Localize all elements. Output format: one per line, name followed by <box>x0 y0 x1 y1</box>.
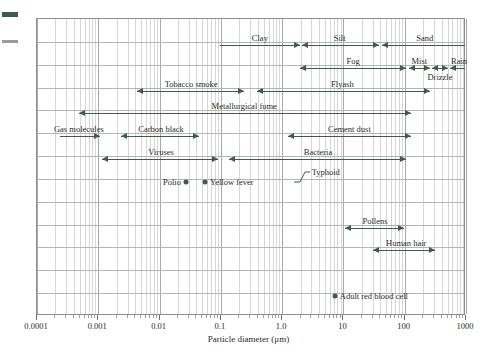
range-bar <box>409 68 431 69</box>
x-tick-label: 0.001 <box>88 321 107 331</box>
x-tick-minor <box>145 315 146 318</box>
range-bar <box>373 250 435 251</box>
x-tick-major <box>281 315 282 320</box>
x-tick-minor <box>318 315 319 318</box>
plot-area <box>36 18 465 315</box>
range-label: Carbon black <box>138 124 184 134</box>
gridline-horizontal <box>37 42 464 43</box>
x-tick-minor <box>116 315 117 318</box>
range-label: Metallurgical fume <box>212 101 277 111</box>
x-tick-minor <box>140 315 141 318</box>
x-tick-minor <box>278 315 279 318</box>
range-bar <box>229 159 406 160</box>
range-label: Human hair <box>386 238 426 248</box>
x-tick-minor <box>153 315 154 318</box>
x-tick-minor <box>441 315 442 318</box>
range-label: Bacteria <box>304 147 332 157</box>
x-tick-minor <box>88 315 89 318</box>
x-tick-minor <box>177 315 178 318</box>
range-label: Clay <box>252 33 268 43</box>
x-tick-minor <box>238 315 239 318</box>
x-tick-label: 0.1 <box>215 321 226 331</box>
x-tick-minor <box>333 315 334 318</box>
x-tick-minor <box>79 315 80 318</box>
x-tick-minor <box>54 315 55 318</box>
x-tick-minor <box>300 315 301 318</box>
range-label: Gas molecules <box>54 124 104 134</box>
x-tick-minor <box>94 315 95 318</box>
x-tick-minor <box>394 315 395 318</box>
gridline-horizontal <box>37 88 464 89</box>
x-tick-minor <box>459 315 460 318</box>
x-tick-major <box>404 315 405 320</box>
x-tick-minor <box>275 315 276 318</box>
range-bar <box>450 68 465 69</box>
x-tick-minor <box>210 315 211 318</box>
x-tick-minor <box>447 315 448 318</box>
x-tick-minor <box>73 315 74 318</box>
range-label: Cement dust <box>328 124 371 134</box>
range-label: Drizzle <box>427 72 452 82</box>
x-tick-minor <box>91 315 92 318</box>
x-tick-minor <box>433 315 434 318</box>
x-tick-label: 1000 <box>457 321 474 331</box>
page-edge-mark-gray <box>2 40 18 43</box>
range-label: Tobacco smoke <box>165 79 218 89</box>
range-label: Viruses <box>148 147 173 157</box>
range-bar <box>60 136 99 137</box>
x-tick-minor <box>398 315 399 318</box>
range-label: Silt <box>334 33 346 43</box>
x-tick-minor <box>188 315 189 318</box>
x-tick-major <box>342 315 343 320</box>
x-tick-minor <box>385 315 386 318</box>
range-bar <box>345 228 404 229</box>
range-bar <box>432 68 448 69</box>
range-bar <box>220 45 300 46</box>
range-bar <box>79 113 411 114</box>
range-bar <box>302 45 379 46</box>
x-tick-minor <box>263 315 264 318</box>
x-tick-minor <box>268 315 269 318</box>
x-tick-minor <box>401 315 402 318</box>
x-tick-major <box>220 315 221 320</box>
x-tick-major <box>36 315 37 320</box>
x-tick-minor <box>206 315 207 318</box>
range-label: Sand <box>416 33 433 43</box>
x-tick-minor <box>372 315 373 318</box>
x-tick-minor <box>390 315 391 318</box>
x-tick-minor <box>456 315 457 318</box>
range-bar <box>137 91 244 92</box>
x-tick-minor <box>272 315 273 318</box>
point-marker <box>202 179 207 184</box>
x-tick-major <box>97 315 98 320</box>
point-label: Polio <box>163 177 181 187</box>
x-tick-label: 100 <box>397 321 410 331</box>
x-tick-minor <box>336 315 337 318</box>
x-tick-minor <box>156 315 157 318</box>
x-tick-minor <box>201 315 202 318</box>
x-tick-minor <box>310 315 311 318</box>
x-tick-minor <box>361 315 362 318</box>
x-tick-major <box>159 315 160 320</box>
range-label: Rain <box>451 56 467 66</box>
x-tick-label: 10 <box>338 321 347 331</box>
gridline-horizontal <box>37 202 464 203</box>
range-bar <box>102 159 218 160</box>
range-bar <box>300 68 407 69</box>
x-tick-major <box>465 315 466 320</box>
x-tick-label: 1.0 <box>276 321 287 331</box>
x-tick-label: 0.0001 <box>24 321 47 331</box>
x-tick-minor <box>329 315 330 318</box>
x-tick-minor <box>217 315 218 318</box>
annotation-label: Typhoid <box>312 167 340 177</box>
x-tick-minor <box>127 315 128 318</box>
x-tick-label: 0.01 <box>151 321 166 331</box>
range-label: Flyash <box>331 79 354 89</box>
point-marker <box>183 179 188 184</box>
gridline-horizontal <box>37 270 464 271</box>
x-tick-minor <box>65 315 66 318</box>
x-axis-title: Particle diameter (μm) <box>0 334 497 344</box>
range-label: Mist <box>412 56 428 66</box>
point-marker <box>332 294 337 299</box>
range-bar <box>257 91 430 92</box>
